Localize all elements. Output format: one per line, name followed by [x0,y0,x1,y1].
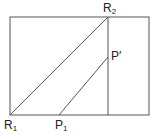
outer-rectangle [10,17,149,115]
diagonal-p1-pprime [59,57,108,115]
diagonal-r1-r2 [10,17,108,115]
label-r2: R2 [103,2,116,16]
label-p1: P1 [55,119,67,133]
label-r1: R1 [4,119,17,133]
diagram-canvas [0,0,153,139]
label-p-prime: P′ [111,50,121,62]
